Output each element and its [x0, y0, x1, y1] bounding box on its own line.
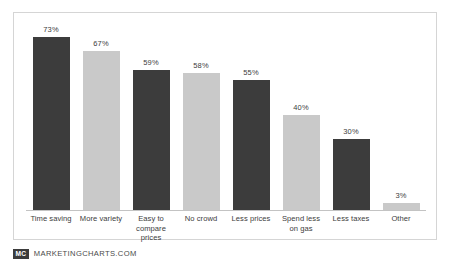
category-label-no-crowd: No crowd [176, 214, 226, 243]
bar-value-label: 30% [343, 128, 358, 136]
bar-value-label: 40% [293, 104, 308, 112]
bar-group: 3% [376, 23, 426, 210]
source-footer: MC MARKETINGCHARTS.COM [13, 249, 137, 259]
bar-group: 55% [226, 23, 276, 210]
source-attribution: MARKETINGCHARTS.COM [34, 249, 137, 258]
category-label-less-prices: Less prices [226, 214, 276, 243]
bar-chart-figure: 73% 67% 59% 58% 55% 40% [0, 0, 449, 276]
bar-group: 59% [126, 23, 176, 210]
x-axis-category-labels: Time saving More variety Easy to compare… [26, 214, 426, 243]
category-label-more-variety: More variety [76, 214, 126, 243]
bar-value-label: 58% [193, 62, 208, 70]
bar-group: 73% [26, 23, 76, 210]
bar-less-prices[interactable] [233, 80, 270, 210]
bar-value-label: 73% [43, 26, 58, 34]
bar-no-crowd[interactable] [183, 73, 220, 210]
bar-value-label: 55% [243, 69, 258, 77]
bar-group: 40% [276, 23, 326, 210]
bar-group: 58% [176, 23, 226, 210]
bar-other[interactable] [383, 203, 420, 210]
category-label-easy-to-compare-prices: Easy to compare prices [126, 214, 176, 243]
category-label-other: Other [376, 214, 426, 243]
x-axis-line [26, 210, 426, 211]
bar-group: 30% [326, 23, 376, 210]
chart-panel: 73% 67% 59% 58% 55% 40% [13, 12, 437, 240]
bar-easy-to-compare-prices[interactable] [133, 70, 170, 210]
bar-more-variety[interactable] [83, 51, 120, 210]
bar-value-label: 3% [395, 192, 406, 200]
marketingcharts-logo-icon: MC [13, 249, 29, 259]
plot-area: 73% 67% 59% 58% 55% 40% [26, 23, 426, 210]
bar-time-saving[interactable] [33, 37, 70, 210]
category-label-spend-less-on-gas: Spend less on gas [276, 214, 326, 243]
bar-group: 67% [76, 23, 126, 210]
bar-value-label: 67% [93, 40, 108, 48]
bar-value-label: 59% [143, 59, 158, 67]
bar-spend-less-on-gas[interactable] [283, 115, 320, 210]
category-label-less-taxes: Less taxes [326, 214, 376, 243]
bar-less-taxes[interactable] [333, 139, 370, 210]
category-label-time-saving: Time saving [26, 214, 76, 243]
